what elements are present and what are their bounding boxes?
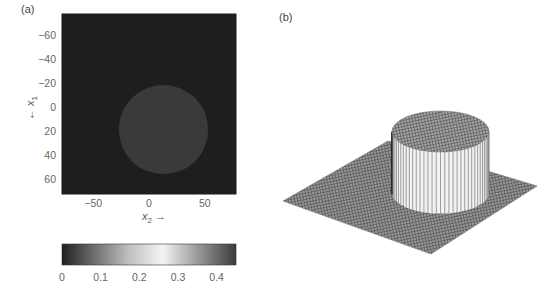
heatmap-panel: −50050 −60−40−200204060 x2→ ←x1 — [24, 14, 236, 225]
figure: −50050 −60−40−200204060 x2→ ←x1 00.10.20… — [0, 0, 550, 292]
y-tick-label: −40 — [38, 53, 56, 65]
colorbar-tick-label: 0.4 — [209, 271, 224, 283]
y-tick-label: 60 — [44, 173, 56, 185]
y-tick-label: 0 — [50, 101, 56, 113]
y-tick-label: −60 — [38, 29, 56, 41]
y-tick-label: −20 — [38, 77, 56, 89]
x-axis-label: x2→ — [141, 210, 166, 225]
y-tick-label: 40 — [44, 149, 56, 161]
cylinder-top-cap — [392, 111, 489, 152]
y-ticks: −60−40−200204060 — [38, 29, 56, 184]
colorbar-tick-label: 0.2 — [132, 271, 147, 283]
surface-panel — [283, 111, 537, 254]
heatmap-disk — [119, 85, 208, 174]
colorbar-ticks: 00.10.20.30.4 — [59, 271, 224, 283]
colorbar-tick-label: 0.1 — [93, 271, 108, 283]
x-tick-label: 0 — [146, 197, 152, 209]
x-tick-label: −50 — [84, 197, 102, 209]
colorbar: 00.10.20.30.4 — [59, 244, 236, 283]
colorbar-tick-label: 0.3 — [171, 271, 186, 283]
colorbar-bar — [62, 244, 236, 265]
y-tick-label: 20 — [44, 125, 56, 137]
y-axis-label: ←x1 — [24, 95, 39, 120]
colorbar-tick-label: 0 — [59, 271, 65, 283]
x-ticks: −50050 — [84, 197, 210, 209]
x-tick-label: 50 — [199, 197, 211, 209]
